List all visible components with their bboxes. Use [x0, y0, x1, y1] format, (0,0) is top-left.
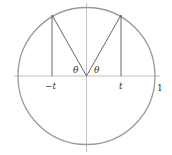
pos-t-label: t [119, 81, 123, 91]
theta-left-label: θ [73, 65, 79, 75]
left-radius-segment [52, 15, 87, 76]
right-radius-segment [87, 15, 122, 76]
one-label: 1 [157, 83, 163, 93]
neg-t-label: −t [45, 81, 57, 91]
unit-circle-diagram: θ θ −t t 1 [0, 0, 172, 155]
theta-right-label: θ [94, 65, 100, 75]
